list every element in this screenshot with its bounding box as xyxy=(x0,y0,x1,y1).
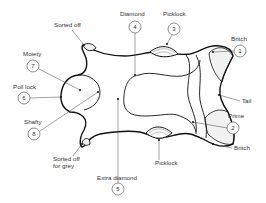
fleece-diagram: 4 3 1 7 6 8 2 5 Sorted off Diamond Pickl… xyxy=(0,0,266,203)
label-picklock-top: Picklock xyxy=(163,10,187,17)
label-picklock-bottom: Picklock xyxy=(155,159,179,166)
label-britch-top: Britch xyxy=(231,35,247,42)
label-diamond: Diamond xyxy=(120,10,145,17)
label-sorted-off-grey-2: for grey xyxy=(53,162,75,169)
label-extra-diamond: Extra diamond xyxy=(97,174,137,181)
label-shafty: Shafty xyxy=(24,118,42,125)
label-sorted-off-grey-1: Sorted off xyxy=(53,155,80,162)
label-moiety: Moiety xyxy=(23,50,42,57)
label-sorted-off: Sorted off xyxy=(54,21,81,28)
label-tail: Tail xyxy=(242,97,251,104)
label-prime: Prime xyxy=(228,112,245,119)
label-poll-lock: Poll lock xyxy=(13,83,37,90)
label-britch-bottom: Britch xyxy=(234,144,250,151)
